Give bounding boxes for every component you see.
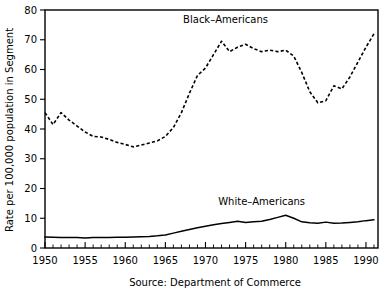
y-tick-label-50: 50: [24, 94, 37, 105]
axes-rectangle: [45, 10, 378, 248]
x-tick-label-1960: 1960: [113, 255, 138, 266]
line-chart: 01020304050607080 1950195519601965197019…: [0, 0, 391, 293]
series-line-white-americans: [45, 215, 374, 238]
y-tick-label-80: 80: [24, 5, 37, 16]
y-tick-label-70: 70: [24, 34, 37, 45]
series-line-black-americans: [45, 34, 374, 147]
x-tick-label-1965: 1965: [153, 255, 178, 266]
x-tick-label-1975: 1975: [233, 255, 258, 266]
series-label-black-americans: Black–Americans: [183, 14, 268, 25]
series-annotations: Black–AmericansWhite–Americans: [183, 14, 305, 206]
chart-figure: 01020304050607080 1950195519601965197019…: [0, 0, 391, 293]
y-tick-label-40: 40: [24, 124, 37, 135]
series-label-white-americans: White–Americans: [218, 196, 305, 207]
y-axis-tick-labels: 01020304050607080: [24, 5, 37, 254]
y-tick-label-30: 30: [24, 153, 37, 164]
data-series-group: [45, 34, 374, 238]
x-tick-label-1950: 1950: [32, 255, 57, 266]
y-tick-label-60: 60: [24, 64, 37, 75]
source-caption: Source: Department of Commerce: [129, 277, 301, 288]
y-axis-title: Rate per 100,000 population in Segment: [4, 28, 15, 232]
x-tick-label-1980: 1980: [273, 255, 298, 266]
y-tick-label-10: 10: [24, 213, 37, 224]
y-tick-label-0: 0: [31, 243, 37, 254]
y-tick-label-20: 20: [24, 183, 37, 194]
x-axis-tick-labels: 195019551960196519701975198019851990: [32, 255, 378, 266]
y-axis-ticks: [40, 10, 45, 248]
plot-frame: [45, 10, 378, 248]
x-tick-label-1970: 1970: [193, 255, 218, 266]
x-axis-ticks: [45, 242, 374, 248]
x-tick-label-1955: 1955: [72, 255, 97, 266]
x-tick-label-1985: 1985: [313, 255, 338, 266]
x-tick-label-1990: 1990: [353, 255, 378, 266]
